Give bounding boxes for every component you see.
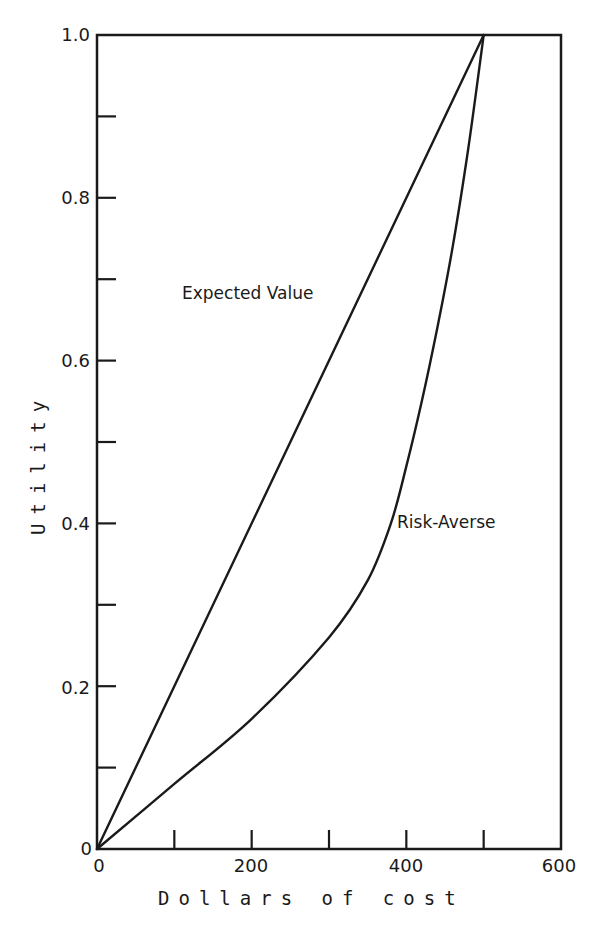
expected-value-line [97,35,484,849]
x-axis-tick-labels: 0 200 400 600 [93,855,576,876]
risk-averse-label: Risk-Averse [397,512,495,532]
x-axis-ticks [174,830,483,849]
y-tick-label: 0.6 [61,350,90,371]
expected-value-label: Expected Value [182,283,313,303]
y-axis-ticks [97,116,116,767]
x-tick-label: 0 [93,855,104,876]
plot-frame [97,35,561,849]
y-axis-title: Utility [27,392,49,535]
y-tick-label: 0.4 [61,513,90,534]
x-tick-label: 400 [389,855,423,876]
utility-chart: 1.0 0.8 0.6 0.4 0.2 0 0 200 400 600 Doll… [0,0,605,936]
y-axis-tick-labels: 1.0 0.8 0.6 0.4 0.2 0 [61,24,92,859]
y-tick-label: 1.0 [61,24,90,45]
x-tick-label: 600 [542,855,576,876]
y-tick-label: 0.2 [61,677,90,698]
y-tick-label: 0 [81,838,92,859]
x-axis-title: Dollars of cost [158,887,465,909]
y-tick-label: 0.8 [61,187,90,208]
x-tick-label: 200 [234,855,268,876]
